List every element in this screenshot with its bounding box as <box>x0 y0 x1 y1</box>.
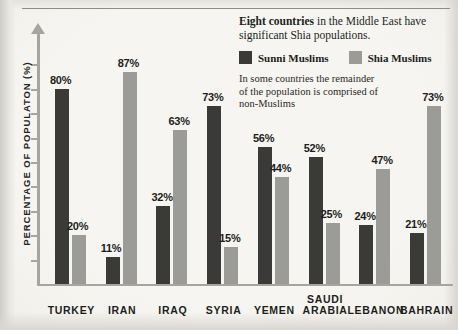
legend-item-shia: Shia Muslims <box>349 51 432 64</box>
bar-syria-shia <box>224 247 238 284</box>
y-axis-tick <box>31 235 40 237</box>
bar-value-label: 15% <box>219 232 240 244</box>
bar-value-label: 87% <box>118 57 139 69</box>
bar-yemen-shia <box>275 177 289 284</box>
bar-value-label: 44% <box>270 162 291 174</box>
y-axis-tick <box>31 211 40 213</box>
bar-turkey-shia <box>72 235 86 284</box>
y-axis-tick <box>31 89 40 91</box>
x-axis-line <box>37 284 453 286</box>
bar-lebanon-sunni <box>359 225 373 284</box>
bar-iran-shia <box>123 72 137 284</box>
bar-bahrain-sunni <box>410 233 424 284</box>
y-axis-tick <box>31 260 40 262</box>
annotation-block: Eight countries in the Middle East have … <box>239 14 453 111</box>
bar-value-label: 73% <box>202 91 223 103</box>
legend-label-shia: Shia Muslims <box>368 52 432 64</box>
bar-saudi-arabia-sunni <box>309 157 323 284</box>
bar-iraq-sunni <box>156 206 170 284</box>
bar-value-label: 56% <box>253 132 274 144</box>
bar-value-label: 47% <box>371 154 392 166</box>
bar-value-label: 11% <box>101 242 122 254</box>
bar-value-label: 52% <box>304 142 325 154</box>
bar-lebanon-shia <box>376 169 390 284</box>
bar-turkey-sunni <box>55 89 69 284</box>
footnote-text: In some countries the remainder of the p… <box>239 73 379 111</box>
bar-value-label: 80% <box>50 74 71 86</box>
headline-text: Eight countries in the Middle East have … <box>239 14 453 42</box>
headline-emphasis: Eight countries <box>239 15 314 27</box>
x-axis-category-label: BAHRAIN <box>395 305 458 316</box>
legend-item-sunni: Sunni Muslims <box>239 51 329 64</box>
y-axis-label: PERCENTAGE OF POPULATON (%) <box>21 59 32 249</box>
legend-label-sunni: Sunni Muslims <box>258 52 329 64</box>
bar-value-label: 20% <box>67 220 88 232</box>
bar-bahrain-shia <box>427 106 441 284</box>
bar-value-label: 24% <box>354 210 375 222</box>
bar-value-label: 63% <box>168 115 189 127</box>
bar-value-label: 32% <box>151 191 172 203</box>
y-axis-line <box>37 31 40 286</box>
y-axis-arrow-icon <box>31 23 45 34</box>
bar-iraq-shia <box>173 130 187 284</box>
bar-value-label: 21% <box>405 218 426 230</box>
y-axis-tick <box>31 138 40 140</box>
y-axis-tick <box>31 113 40 115</box>
bar-syria-sunni <box>207 106 221 284</box>
y-axis-tick <box>31 186 40 188</box>
bar-saudi-arabia-shia <box>326 223 340 284</box>
y-axis-tick <box>31 162 40 164</box>
bar-value-label: 25% <box>321 208 342 220</box>
y-axis-tick <box>31 64 40 66</box>
chart-legend: Sunni Muslims Shia Muslims <box>239 51 453 64</box>
bar-iran-sunni <box>106 257 120 284</box>
legend-swatch-shia <box>349 51 362 64</box>
legend-swatch-sunni <box>239 51 252 64</box>
